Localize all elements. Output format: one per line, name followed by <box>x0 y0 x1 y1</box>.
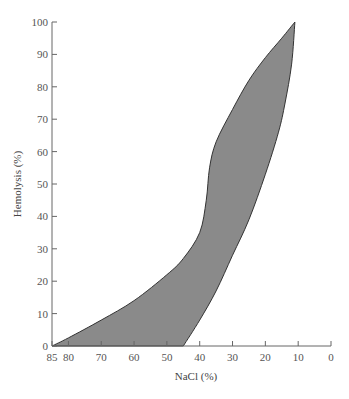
y-tick-label: 10 <box>37 308 49 320</box>
y-tick-label: 70 <box>37 113 49 125</box>
y-tick-label: 20 <box>37 275 49 287</box>
y-axis-label: Hemolysis (%) <box>11 151 24 218</box>
x-tick-label: 0 <box>328 351 334 363</box>
x-tick-label: 80 <box>63 351 75 363</box>
x-tick-label: 10 <box>293 351 305 363</box>
x-tick-label: 70 <box>96 351 108 363</box>
x-tick-label: 40 <box>194 351 206 363</box>
hemolysis-area <box>52 22 295 346</box>
x-tick-label: 85 <box>47 351 59 363</box>
x-tick-label: 20 <box>260 351 272 363</box>
y-tick-label: 50 <box>37 178 49 190</box>
y-tick-label: 60 <box>37 146 49 158</box>
x-tick-label: 50 <box>161 351 173 363</box>
y-tick-label: 100 <box>32 16 49 28</box>
x-tick-label: 60 <box>129 351 141 363</box>
hemolysis-band <box>52 22 295 346</box>
y-tick-label: 30 <box>37 243 49 255</box>
x-axis-label: NaCl (%) <box>175 370 218 383</box>
y-tick-label: 80 <box>37 81 49 93</box>
y-tick-label: 90 <box>37 48 49 60</box>
x-tick-label: 30 <box>227 351 239 363</box>
hemolysis-chart: 0102030405060708090100858070605040302010… <box>0 0 349 399</box>
y-tick-label: 40 <box>37 210 49 222</box>
